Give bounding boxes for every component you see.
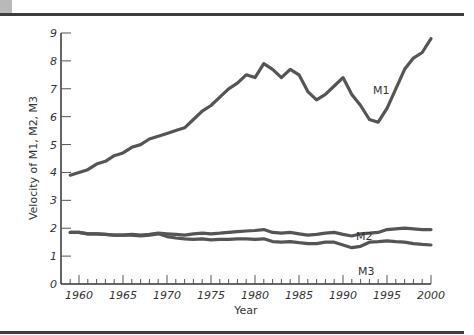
x-axis-title: Year — [233, 304, 258, 317]
y-tick-label: 2 — [50, 222, 57, 235]
y-tick-label: 0 — [50, 278, 57, 291]
y-tick-label: 5 — [50, 139, 57, 152]
x-tick-label: 2000 — [417, 289, 445, 302]
y-tick-label: 6 — [50, 111, 57, 124]
x-tick-label: 1970 — [153, 289, 181, 302]
series-line-m1 — [70, 39, 431, 176]
series-layer: M1M2M3 — [70, 39, 431, 278]
y-tick-label: 7 — [50, 83, 57, 96]
series-line-m3 — [70, 232, 431, 247]
x-tick-label: 1975 — [197, 289, 225, 302]
x-tick-label: 1985 — [285, 289, 313, 302]
x-tick-label: 1980 — [241, 289, 269, 302]
y-tick-label: 8 — [50, 55, 57, 68]
x-tick-label: 1960 — [65, 289, 93, 302]
y-tick-label: 4 — [50, 166, 57, 179]
y-tick-label: 9 — [50, 27, 57, 40]
series-label-m1: M1 — [373, 84, 390, 97]
y-tick-label: 3 — [50, 194, 57, 207]
axes: 0123456789196019651970197519801985199019… — [50, 27, 445, 302]
y-tick-label: 1 — [50, 250, 57, 263]
velocity-chart: 0123456789196019651970197519801985199019… — [0, 0, 474, 335]
series-label-m3: M3 — [358, 265, 375, 278]
y-axis-title: Velocity of M1, M2, M3 — [27, 96, 40, 220]
x-tick-label: 1990 — [329, 289, 357, 302]
x-tick-label: 1995 — [373, 289, 401, 302]
x-tick-label: 1965 — [109, 289, 137, 302]
